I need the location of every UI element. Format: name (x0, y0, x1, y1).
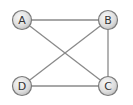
node-c: C (99, 77, 118, 96)
node-d: D (13, 77, 32, 96)
node-a: A (13, 11, 32, 30)
edges (22, 20, 108, 86)
node-label: D (18, 80, 26, 93)
node-b: B (99, 11, 118, 30)
graph-diagram: A B C D (0, 0, 133, 105)
node-label: A (18, 14, 26, 27)
node-label: B (104, 14, 112, 27)
node-label: C (104, 80, 112, 93)
